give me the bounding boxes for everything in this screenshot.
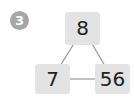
- line-top-left: [60, 42, 75, 66]
- line-top-right: [91, 42, 105, 66]
- left-number-box: 7: [35, 64, 70, 94]
- top-number-box: 8: [65, 12, 100, 45]
- right-number-box: 56: [95, 64, 130, 94]
